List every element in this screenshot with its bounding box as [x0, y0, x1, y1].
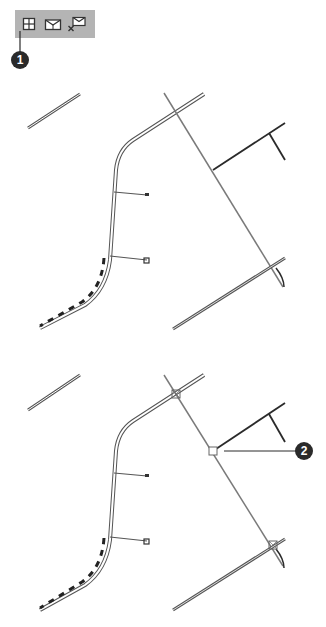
branch-line	[269, 133, 285, 160]
callout-2: 2	[295, 442, 313, 460]
stub-line	[114, 192, 147, 195]
intersection-node[interactable]	[209, 447, 217, 455]
curved-road	[40, 375, 204, 610]
boundary-line	[164, 93, 283, 287]
stub-line	[110, 537, 147, 541]
panel-after	[28, 375, 296, 610]
drawing-canvas	[0, 0, 326, 627]
stub-line	[110, 256, 147, 260]
dashed-edge	[40, 258, 104, 326]
branch-line	[269, 414, 285, 442]
panel-before	[28, 93, 285, 329]
callout-1: 1	[11, 51, 29, 69]
branch-line	[213, 123, 285, 170]
boundary-line	[164, 375, 283, 566]
callout-2-label: 2	[301, 444, 308, 458]
callout-1-label: 1	[17, 53, 24, 67]
curved-road	[40, 94, 204, 328]
dashed-edge	[40, 538, 104, 608]
branch-line	[213, 403, 285, 451]
stub-line	[114, 473, 147, 476]
